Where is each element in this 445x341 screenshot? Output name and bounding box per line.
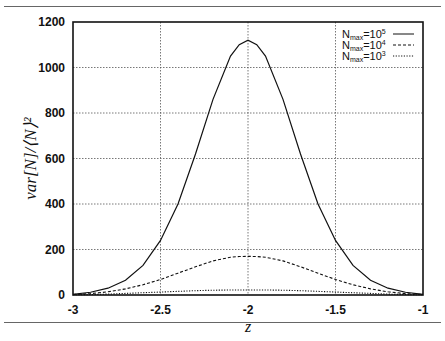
y-tick-label: 1200 bbox=[38, 15, 65, 29]
x-tick-label: -2.5 bbox=[150, 303, 171, 317]
line-chart: 020040060080010001200-3-2.5-2-1.5-1zvar[… bbox=[0, 0, 445, 341]
x-tick-label: -3 bbox=[68, 303, 79, 317]
y-axis-label: var[N]/⟨N⟩² bbox=[21, 116, 40, 199]
y-tick-label: 600 bbox=[45, 152, 65, 166]
y-tick-label: 1000 bbox=[38, 61, 65, 75]
y-tick-label: 800 bbox=[45, 106, 65, 120]
legend-label: Nmax=103 bbox=[342, 50, 386, 63]
y-tick-label: 0 bbox=[58, 288, 65, 302]
x-tick-label: -1 bbox=[418, 303, 429, 317]
x-tick-label: -1.5 bbox=[325, 303, 346, 317]
y-tick-label: 400 bbox=[45, 197, 65, 211]
x-axis-label: z bbox=[244, 318, 252, 335]
y-tick-label: 200 bbox=[45, 243, 65, 257]
x-tick-label: -2 bbox=[243, 303, 254, 317]
chart-figure: 020040060080010001200-3-2.5-2-1.5-1zvar[… bbox=[0, 0, 445, 341]
